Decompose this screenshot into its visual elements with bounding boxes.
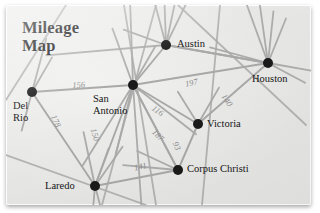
city-label-austin: Austin bbox=[177, 38, 205, 50]
city-node-victoria[interactable] bbox=[193, 119, 203, 129]
road-stub-houston bbox=[268, 63, 311, 73]
road-stub-houston bbox=[259, 5, 268, 63]
city-node-del-rio[interactable] bbox=[27, 87, 37, 97]
through-road-4 bbox=[178, 5, 306, 125]
road-stub-del-rio bbox=[32, 57, 52, 92]
road-stub-victoria bbox=[178, 92, 198, 124]
map-title-line2: Map bbox=[22, 37, 56, 55]
city-node-austin[interactable] bbox=[161, 40, 171, 50]
city-node-houston[interactable] bbox=[263, 58, 273, 68]
road-stub-austin bbox=[46, 45, 166, 55]
city-label-corpus-christi: Corpus Christi bbox=[187, 163, 249, 175]
city-label-laredo: Laredo bbox=[45, 180, 75, 192]
map-title-line1: Mileage bbox=[22, 19, 79, 37]
city-node-laredo[interactable] bbox=[90, 181, 100, 191]
mileage-map-figure: Mileage Map DelRioSanAntonioAustinHousto… bbox=[0, 0, 320, 213]
city-label-del-rio: DelRio bbox=[13, 100, 28, 123]
city-label-san-antonio: SanAntonio bbox=[93, 93, 127, 116]
city-node-corpus-christi[interactable] bbox=[173, 165, 183, 175]
map-paper: Mileage Map DelRioSanAntonioAustinHousto… bbox=[6, 5, 311, 205]
distance-label-del-rio-san-antonio: 156 bbox=[72, 79, 85, 90]
city-label-victoria: Victoria bbox=[207, 118, 241, 130]
edge-san-antonio-austin bbox=[133, 45, 166, 85]
road-stub-laredo bbox=[95, 148, 109, 186]
city-label-houston: Houston bbox=[252, 73, 288, 85]
city-node-san-antonio[interactable] bbox=[128, 80, 138, 90]
